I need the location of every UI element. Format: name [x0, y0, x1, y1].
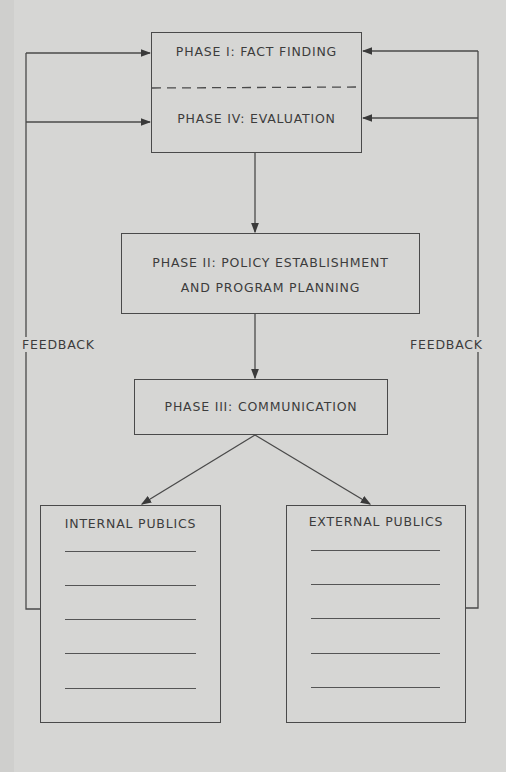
external-blank-line-2 — [311, 584, 440, 585]
phase2-box — [121, 233, 420, 314]
feedback-right-line — [465, 51, 478, 608]
arrow-to-internal-publics — [142, 435, 255, 504]
internal-blank-line-1 — [65, 551, 196, 552]
external-blank-line-4 — [311, 653, 440, 654]
feedback-right-label: FEEDBACK — [408, 337, 485, 352]
external-blank-line-1 — [311, 550, 440, 551]
internal-blank-line-2 — [65, 585, 196, 586]
phase3-label: PHASE III: COMMUNICATION — [134, 399, 388, 414]
feedback-left-line — [26, 53, 40, 609]
feedback-left-label: FEEDBACK — [20, 337, 97, 352]
internal-publics-label: INTERNAL PUBLICS — [40, 516, 221, 531]
external-publics-label: EXTERNAL PUBLICS — [286, 514, 466, 529]
phase4-label: PHASE IV: EVALUATION — [151, 111, 362, 126]
internal-publics-box — [40, 505, 221, 723]
phase2-label-line1: PHASE II: POLICY ESTABLISHMENT — [121, 255, 420, 270]
external-blank-line-5 — [311, 687, 440, 688]
external-publics-box — [286, 505, 466, 723]
diagram-page: PHASE I: FACT FINDING PHASE IV: EVALUATI… — [0, 0, 506, 772]
phase1-label: PHASE I: FACT FINDING — [151, 44, 362, 59]
phase2-label-line2: AND PROGRAM PLANNING — [121, 280, 420, 295]
internal-blank-line-5 — [65, 688, 196, 689]
internal-blank-line-4 — [65, 653, 196, 654]
arrow-to-external-publics — [255, 435, 370, 504]
external-blank-line-3 — [311, 618, 440, 619]
internal-blank-line-3 — [65, 619, 196, 620]
